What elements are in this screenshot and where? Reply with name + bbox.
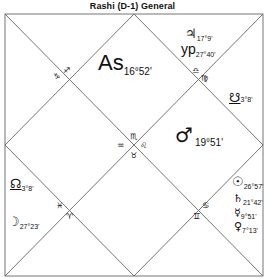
yogi-point-label: yp27°40' [181,41,216,58]
ketu-label: ☋3°8' [229,89,252,105]
venus-label: ♀7°13' [234,217,258,234]
rahu-degree: 3°8' [22,185,34,192]
sign-marker-virgo: ♍ [201,75,208,83]
ascendant-degree: 16°52' [124,66,152,77]
rahu-label: ☊3°8' [10,175,33,192]
ascendant-symbol: As [98,50,124,75]
mars-label: ♂19°51' [175,125,223,148]
sign-marker-capricorn: ♑ [53,73,60,81]
sun-label: ☉26°57' [232,173,263,190]
moon-label: ☽27°23' [8,213,39,230]
rahu-icon: ☊ [10,176,22,191]
sign-marker-scorpio: ♏ [130,133,137,141]
sign-marker-gemini: ♊ [193,213,200,221]
venus-icon: ♀ [234,220,242,233]
jupiter-icon: ♃ [185,26,197,41]
sign-marker-aquarius: ♒ [117,142,124,150]
sign-marker-pisces: ♓ [56,202,63,210]
jupiter-label: ♃17°9' [185,25,212,42]
sign-marker-leo: ♌ [140,142,147,150]
sign-marker-aries: ♈ [66,213,73,221]
sign-marker-taurus: ♉ [130,152,137,160]
mars-icon: ♂ [175,123,193,147]
yogi-point-degree: 27°40' [196,51,216,58]
sign-marker-cancer: ♋ [202,202,209,210]
venus-degree: 7°13' [242,227,258,234]
ascendant-label: As16°52' [98,52,152,77]
moon-icon: ☽ [8,214,20,229]
moon-degree: 27°23' [20,223,40,230]
yogi-point-symbol: yp [181,41,196,57]
sun-icon: ☉ [232,174,244,189]
ketu-icon: ☋ [229,90,241,105]
mars-degree: 19°51' [195,137,223,148]
ketu-degree: 3°8' [241,96,253,103]
sign-marker-sagittarius: ♐ [63,67,70,75]
sign-marker-libra: ♎ [192,67,199,75]
